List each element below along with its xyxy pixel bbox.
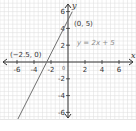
y-tick-label: -2 [58,75,65,83]
y-tick-label: -4 [58,92,66,100]
x-tick-label: -6 [14,66,22,74]
x-tick-label: -2 [48,66,55,74]
point-label-y-intercept: (0, 5) [74,20,93,28]
x-tick-label: 6 [117,66,122,74]
x-tick-label: -4 [31,66,39,74]
y-tick-label: -6 [58,109,66,117]
coordinate-plane: x y -6-4-2246642-2-4-6 0 (0, 5) (−2.5, 0… [0,0,136,119]
y-tick-label: 2 [61,42,65,50]
x-axis-label: x [131,51,136,60]
x-tick-label: 2 [83,66,87,74]
x-tick-label: 4 [100,66,105,74]
equation-label: y = 2x + 5 [76,39,115,47]
bottom-margin [0,119,136,131]
y-axis-label: y [71,1,77,10]
origin-label: 0 [62,65,65,71]
y-tick-label: 6 [61,8,66,16]
axes: x y [3,1,136,118]
point-label-x-intercept: (−2.5, 0) [10,51,42,59]
